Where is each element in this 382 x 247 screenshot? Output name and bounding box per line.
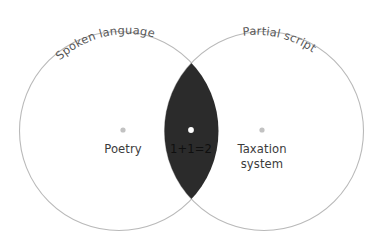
node-dot-poetry[interactable]: [120, 127, 125, 132]
venn-diagram-canvas: Spoken language Partial script Poetry 1+…: [0, 0, 382, 247]
node-label-taxation-system-line1: Taxation: [236, 142, 286, 156]
node-label-poetry: Poetry: [104, 142, 142, 156]
node-label-intersection: 1+1=2: [170, 142, 212, 156]
venn-diagram-figure: Spoken language Partial script Poetry 1+…: [0, 0, 382, 247]
node-dot-intersection[interactable]: [188, 127, 194, 133]
node-dot-taxation-system[interactable]: [259, 127, 264, 132]
node-label-taxation-system-line2: system: [241, 157, 284, 171]
